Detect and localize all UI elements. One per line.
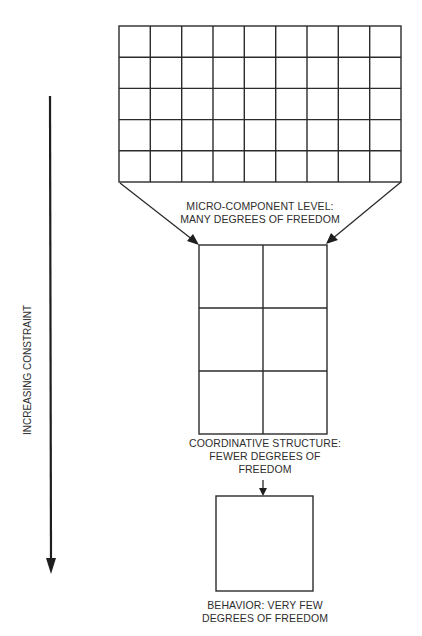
arrowhead-down-icon [259, 488, 267, 496]
behavior-label: BEHAVIOR: VERY FEW DEGREES OF FREEDOM [195, 599, 335, 625]
micro-component-label-line-2: MANY DEGREES OF FREEDOM [165, 213, 355, 226]
arrowhead-axis-down-icon [46, 558, 56, 574]
behavior-box [216, 496, 313, 591]
constraint-axis-arrow [46, 96, 56, 574]
coordinative-structure-label-line-1: COORDINATIVE STRUCTURE: [185, 437, 345, 450]
constraint-diagram [0, 0, 422, 636]
coordinative-structure-grid [199, 245, 327, 434]
coordinative-structure-label: COORDINATIVE STRUCTURE: FEWER DEGREES OF… [185, 437, 345, 476]
down-arrow-to-behavior [259, 480, 267, 496]
arrowhead-left-icon [187, 234, 199, 245]
arrowhead-right-icon [326, 233, 338, 244]
coordinative-structure-label-line-2: FEWER DEGREES OF [185, 450, 345, 463]
axis-label-increasing-constraint: INCREASING CONSTRAINT [21, 270, 35, 470]
micro-component-label-line-1: MICRO-COMPONENT LEVEL: [165, 200, 355, 213]
micro-component-label: MICRO-COMPONENT LEVEL: MANY DEGREES OF F… [165, 200, 355, 226]
coordinative-structure-label-line-3: FREEDOM [185, 463, 345, 476]
behavior-label-line-1: BEHAVIOR: VERY FEW [195, 599, 335, 612]
behavior-label-line-2: DEGREES OF FREEDOM [195, 612, 335, 625]
micro-component-grid [119, 26, 401, 182]
